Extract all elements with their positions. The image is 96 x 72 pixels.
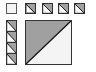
big-square — [26, 21, 72, 65]
small-square-blank — [7, 4, 17, 14]
left-column — [7, 21, 17, 65]
small-square-split-3 — [59, 4, 69, 14]
small-square-split-1 — [26, 4, 36, 14]
small-square-split-2 — [43, 4, 53, 14]
diagram-svg — [0, 0, 96, 72]
small-square-split-4 — [75, 4, 85, 14]
diagram-canvas — [0, 0, 96, 72]
